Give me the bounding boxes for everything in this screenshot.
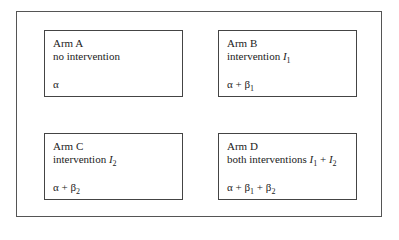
- arm-b-desc-text: intervention: [227, 50, 283, 62]
- plus: +: [236, 181, 242, 193]
- plus: +: [62, 181, 68, 193]
- alpha: α: [53, 181, 59, 193]
- arm-a-description: no intervention: [53, 50, 120, 63]
- alpha: α: [227, 78, 233, 90]
- arm-c-name: Arm C: [53, 140, 83, 153]
- arm-c-description: intervention I2: [53, 153, 117, 166]
- arm-b-symbol-sub: 1: [287, 56, 291, 65]
- arm-a-effect: α: [53, 78, 59, 91]
- arm-d-effect: α + β1 + β2: [227, 181, 275, 194]
- alpha: α: [227, 181, 233, 193]
- plus: +: [236, 78, 242, 90]
- arm-d-name: Arm D: [227, 140, 258, 153]
- beta-sub: 1: [250, 84, 254, 93]
- arm-c-box: Arm C intervention I2 α + β2: [44, 133, 183, 200]
- arm-d-desc-text: both interventions: [227, 153, 310, 165]
- arm-a-box: Arm A no intervention α: [44, 30, 183, 97]
- plus: +: [257, 181, 263, 193]
- arm-b-box: Arm B intervention I1 α + β1: [218, 30, 357, 97]
- arm-b-effect: α + β1: [227, 78, 254, 91]
- arm-c-symbol-sub: 2: [113, 159, 117, 168]
- arm-d-symbol-2-sub: 2: [333, 159, 337, 168]
- arm-a-name: Arm A: [53, 37, 83, 50]
- arm-d-box: Arm D both interventions I1 + I2 α + β1 …: [218, 133, 357, 200]
- arm-c-desc-text: intervention: [53, 153, 109, 165]
- arm-d-symbol-1-sub: 1: [313, 159, 317, 168]
- beta-2-sub: 2: [271, 187, 275, 196]
- plus: +: [320, 153, 326, 165]
- beta-sub: 2: [76, 187, 80, 196]
- arm-d-description: both interventions I1 + I2: [227, 153, 337, 166]
- arm-b-name: Arm B: [227, 37, 257, 50]
- arm-b-description: intervention I1: [227, 50, 291, 63]
- beta-1-sub: 1: [250, 187, 254, 196]
- arm-c-effect: α + β2: [53, 181, 80, 194]
